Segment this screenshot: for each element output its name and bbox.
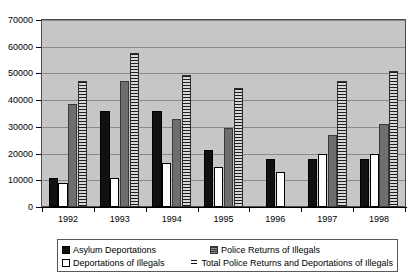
bar: [120, 81, 129, 207]
solid-black-swatch-icon: [62, 246, 70, 254]
bar: [162, 163, 171, 207]
bar: [58, 183, 67, 207]
x-axis-tick-mark: [353, 207, 354, 212]
legend-item-total-police-returns-and-deportations: Total Police Returns and Deportations of…: [190, 258, 393, 268]
bar: [130, 53, 139, 207]
bar: [234, 88, 243, 207]
legend-label: Asylum Deportations: [73, 245, 156, 255]
bar: [68, 104, 77, 207]
x-axis-tick-mark: [405, 207, 406, 212]
x-axis-tick-label: 1994: [162, 214, 182, 224]
x-axis-tick-label: 1998: [369, 214, 389, 224]
legend-row-1: Asylum Deportations Police Returns of Il…: [62, 243, 393, 256]
x-axis-tick-label: 1997: [317, 214, 337, 224]
bar: [204, 150, 213, 207]
legend-label: Total Police Returns and Deportations of…: [201, 258, 393, 268]
chart-legend: Asylum Deportations Police Returns of Il…: [57, 239, 398, 272]
legend-row-2: Deportations of Illegals Total Police Re…: [62, 256, 393, 269]
x-axis-tick-mark: [249, 207, 250, 212]
bar: [276, 172, 285, 207]
solid-white-swatch-icon: [62, 259, 70, 267]
bar-groups: [42, 20, 405, 207]
x-axis-tick-mark: [94, 207, 95, 212]
bar: [182, 75, 191, 207]
x-axis-tick-mark: [146, 207, 147, 212]
hatch-swatch-icon: [190, 259, 198, 267]
bar: [370, 154, 379, 207]
y-axis-tick-label: 0: [28, 203, 33, 212]
solid-gray-swatch-icon: [210, 246, 218, 254]
x-axis-tick-mark: [198, 207, 199, 212]
y-axis-tick-label: 70000: [8, 16, 33, 25]
bar: [172, 119, 181, 207]
legend-item-deportations-of-illegals: Deportations of Illegals: [62, 258, 190, 268]
y-axis-tick-label: 10000: [8, 176, 33, 185]
bar: [266, 159, 275, 207]
y-axis: 700006000050000400003000020000100000: [0, 0, 41, 212]
bar: [100, 111, 109, 207]
legend-item-police-returns-of-illegals: Police Returns of Illegals: [210, 245, 320, 255]
legend-label: Police Returns of Illegals: [221, 245, 320, 255]
x-axis-tick-label: 1992: [58, 214, 78, 224]
y-axis-tick-label: 30000: [8, 122, 33, 131]
bar: [389, 71, 398, 207]
x-axis-line: [36, 207, 407, 208]
y-axis-tick-label: 50000: [8, 69, 33, 78]
x-axis-tick-label: 1993: [110, 214, 130, 224]
x-axis-tick-label: 1995: [213, 214, 233, 224]
x-axis-tick-mark: [42, 207, 43, 212]
bar: [360, 159, 369, 207]
bar: [308, 159, 317, 207]
bar: [214, 167, 223, 207]
y-axis-tick-label: 40000: [8, 96, 33, 105]
bar: [224, 128, 233, 207]
y-axis-tick-label: 60000: [8, 42, 33, 51]
bar: [318, 154, 327, 207]
bar: [328, 135, 337, 207]
bar: [152, 111, 161, 207]
x-axis-tick-mark: [301, 207, 302, 212]
bar: [337, 81, 346, 207]
chart-figure: 700006000050000400003000020000100000 199…: [0, 0, 415, 277]
legend-item-asylum-deportations: Asylum Deportations: [62, 245, 210, 255]
bar: [49, 178, 58, 207]
x-axis-tick-label: 1996: [265, 214, 285, 224]
legend-label: Deportations of Illegals: [73, 258, 165, 268]
y-axis-tick-label: 20000: [8, 149, 33, 158]
bar: [78, 81, 87, 207]
bar: [110, 178, 119, 207]
bar: [379, 124, 388, 207]
